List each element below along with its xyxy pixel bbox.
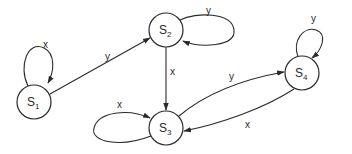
edge-s2-s2 (180, 15, 234, 45)
state-diagram: S1 S2 S3 S4 x y y x x y x y (0, 0, 352, 154)
state-s3: S3 (149, 111, 183, 145)
state-s1: S1 (17, 85, 51, 119)
edge-s1-s1 (24, 47, 53, 86)
label-s1-s1: x (43, 39, 48, 50)
label-s3-s3: x (117, 99, 122, 110)
state-s3-subscript: 3 (167, 128, 172, 137)
edge-s3-s3 (94, 113, 151, 143)
state-s4-subscript: 4 (303, 73, 308, 82)
state-s3-name: S (159, 121, 167, 135)
label-s1-s2: y (105, 51, 110, 62)
state-s1-subscript: 1 (35, 102, 40, 111)
state-s4: S4 (285, 56, 319, 90)
edge-s4-s3 (184, 89, 294, 131)
state-s1-name: S (27, 95, 35, 109)
state-s2: S2 (149, 13, 183, 47)
state-s2-name: S (159, 23, 167, 37)
label-s3-s4: y (229, 71, 234, 82)
label-s2-s3: x (170, 66, 175, 77)
edge-s4-s4 (296, 29, 322, 58)
edge-s1-s2 (50, 38, 150, 94)
label-s4-s4: y (311, 13, 316, 24)
label-s4-s3: x (245, 119, 250, 130)
state-s4-name: S (295, 66, 303, 80)
label-s2-s2: y (206, 5, 211, 16)
state-s2-subscript: 2 (167, 30, 172, 39)
